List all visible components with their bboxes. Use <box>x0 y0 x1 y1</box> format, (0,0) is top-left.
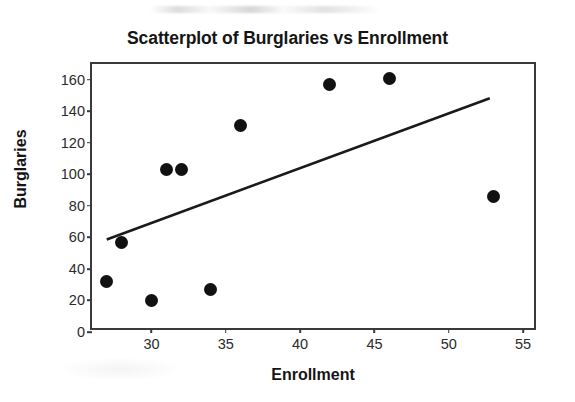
y-tick-label: 20 <box>69 292 85 308</box>
x-tick-label: 30 <box>143 336 159 352</box>
y-tick-label: 120 <box>61 135 85 151</box>
x-tick-label: 55 <box>515 336 531 352</box>
scan-artifact-top <box>150 6 380 13</box>
x-tick-mark <box>299 328 301 333</box>
x-tick-label: 45 <box>366 336 382 352</box>
data-point <box>115 236 128 249</box>
x-tick-label: 40 <box>292 336 308 352</box>
y-tick-mark <box>87 79 92 81</box>
data-point <box>383 72 396 85</box>
plot-area: 020406080100120140160 303540455055 <box>90 62 536 330</box>
x-tick-mark <box>374 328 376 333</box>
y-tick-mark <box>87 268 92 270</box>
y-tick-mark <box>87 331 92 333</box>
y-tick-label: 80 <box>69 198 85 214</box>
y-tick-label: 40 <box>69 261 85 277</box>
x-tick-label: 50 <box>441 336 457 352</box>
chart-title: Scatterplot of Burglaries vs Enrollment <box>0 28 575 49</box>
x-tick-mark <box>522 328 524 333</box>
y-tick-mark <box>87 142 92 144</box>
x-tick-mark <box>448 328 450 333</box>
data-point <box>160 163 173 176</box>
y-tick-label: 0 <box>77 324 85 340</box>
x-tick-mark <box>151 328 153 333</box>
y-tick-mark <box>87 300 92 302</box>
y-axis-title: Burglaries <box>12 109 30 229</box>
data-point <box>487 190 500 203</box>
y-tick-label: 100 <box>61 166 85 182</box>
y-tick-mark <box>87 237 92 239</box>
y-tick-mark <box>87 174 92 176</box>
y-tick-label: 160 <box>61 72 85 88</box>
x-axis-title: Enrollment <box>90 366 536 384</box>
y-tick-mark <box>87 205 92 207</box>
data-point <box>145 294 158 307</box>
x-tick-label: 35 <box>218 336 234 352</box>
y-tick-label: 60 <box>69 229 85 245</box>
scatter-data-layer <box>92 64 534 328</box>
data-point <box>175 163 188 176</box>
y-tick-label: 140 <box>61 103 85 119</box>
y-tick-mark <box>87 110 92 112</box>
x-tick-mark <box>225 328 227 333</box>
